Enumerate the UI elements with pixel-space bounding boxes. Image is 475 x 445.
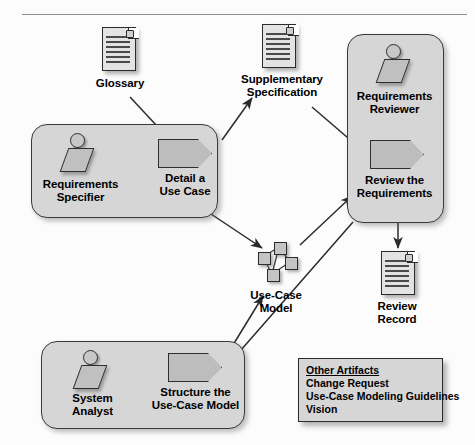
use-case-model-icon xyxy=(252,240,300,284)
glossary-label: Glossary xyxy=(70,77,170,90)
legend-item-vision: Vision xyxy=(306,403,435,416)
review-record-label: Review Record xyxy=(352,300,442,325)
structure-the-use-case-model-activity-icon[interactable] xyxy=(168,353,220,380)
structure-the-use-case-model-label: Structure the Use-Case Model xyxy=(143,386,248,411)
connector-detail-to-supspec xyxy=(222,98,252,140)
glossary-document-icon xyxy=(102,27,138,72)
detail-a-use-case-activity-icon[interactable] xyxy=(158,139,210,166)
requirements-reviewer-actor-icon xyxy=(378,44,412,86)
review-record-document-icon xyxy=(381,251,417,296)
system-analyst-label: System Analyst xyxy=(40,392,145,417)
use-case-model-node xyxy=(267,269,280,282)
legend-item-use-case-modeling-guidelines: Use-Case Modeling Guidelines xyxy=(306,390,435,403)
requirements-specifier-actor-icon xyxy=(62,133,96,175)
diagram-canvas: Glossary Supplementary Specification Req… xyxy=(0,0,475,445)
supplementary-specification-document-icon xyxy=(262,24,298,69)
system-analyst-actor-icon xyxy=(75,350,109,392)
requirements-specifier-label: Requirements Specifier xyxy=(21,178,140,203)
legend-header: Other Artifacts xyxy=(306,364,435,377)
use-case-model-node xyxy=(258,252,271,265)
connector-ucmodel-to-review xyxy=(300,196,352,245)
supplementary-specification-label: Supplementary Specification xyxy=(222,73,342,98)
review-the-requirements-activity-icon[interactable] xyxy=(370,140,422,167)
requirements-reviewer-label: Requirements Reviewer xyxy=(337,90,452,115)
header-divider xyxy=(22,14,467,15)
other-artifacts-legend: Other Artifacts Change Request Use-Case … xyxy=(298,358,443,422)
detail-a-use-case-label: Detail a Use Case xyxy=(140,172,230,197)
review-the-requirements-label: Review the Requirements xyxy=(337,174,452,199)
use-case-model-node xyxy=(285,257,298,270)
use-case-model-label: Use-Case Model xyxy=(231,289,321,314)
legend-item-change-request: Change Request xyxy=(306,377,435,390)
use-case-model-node xyxy=(274,242,287,255)
